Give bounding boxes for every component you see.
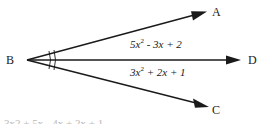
ray-ba xyxy=(27,11,207,60)
angle-expression-lower-coef: 3x xyxy=(130,66,140,78)
ray-bc-arrowhead xyxy=(193,99,209,108)
angle-diagram-figure: A B D C 5x2 - 3x + 2 3x2 + 2x + 1 3x2 + … xyxy=(0,0,260,124)
ray-ba-line xyxy=(27,14,198,60)
point-label-c: C xyxy=(212,104,220,116)
ray-ba-arrowhead xyxy=(191,11,207,20)
clipped-bottom-text: 3x2 + 5x - 4x + 2x + 1 xyxy=(4,117,154,124)
diagram-canvas xyxy=(0,0,260,124)
angle-expression-upper-rest: - 3x + 2 xyxy=(144,38,182,50)
ray-bd-arrowhead xyxy=(226,56,241,65)
angle-expression-upper-coef: 5x xyxy=(130,38,140,50)
point-label-d: D xyxy=(248,54,257,66)
ray-bd xyxy=(27,56,241,65)
angle-expression-lower: 3x2 + 2x + 1 xyxy=(130,67,186,78)
angle-expression-lower-rest: + 2x + 1 xyxy=(144,66,186,78)
point-label-a: A xyxy=(212,6,221,18)
point-label-b: B xyxy=(6,54,14,66)
angle-expression-upper: 5x2 - 3x + 2 xyxy=(130,39,182,50)
